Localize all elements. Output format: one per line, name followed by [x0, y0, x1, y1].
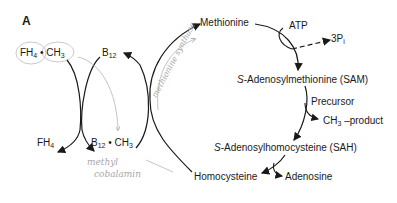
- node-ch3-product: CH3 –product: [323, 115, 383, 130]
- annotation-cofactor-line2: cobalamin: [94, 169, 141, 179]
- node-homocysteine: Homocysteine: [194, 171, 257, 183]
- node-b12-ch3: B12 • CH3: [91, 137, 133, 152]
- annotation-cofactor-line1: methyl: [87, 157, 118, 167]
- node-3pi: 3Pi: [331, 33, 345, 48]
- node-precursor: Precursor: [311, 96, 354, 108]
- node-b12: B12: [102, 47, 116, 62]
- node-fh4-ch3: FH4 • CH3: [20, 47, 65, 62]
- node-sah: S-Adenosylhomocysteine (SAH): [214, 142, 357, 154]
- node-sam: S-Adenosylmethionine (SAM): [237, 74, 368, 86]
- node-atp: ATP: [289, 20, 308, 32]
- node-fh4: FH4: [37, 137, 54, 152]
- node-adenosine: Adenosine: [285, 171, 332, 183]
- node-methionine: Methionine: [200, 17, 249, 29]
